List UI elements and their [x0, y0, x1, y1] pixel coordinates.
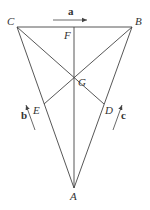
- label-g: G: [78, 76, 86, 88]
- segment-ba: [74, 27, 132, 188]
- label-d: D: [104, 104, 113, 116]
- label-vector-c: c: [121, 109, 126, 121]
- label-b: B: [135, 15, 142, 27]
- segment-ca: [17, 27, 74, 188]
- geometry-diagram: C B F G E D A a b c: [0, 0, 150, 210]
- label-vector-b: b: [21, 109, 27, 121]
- label-f: F: [63, 29, 71, 41]
- segment-cd: [17, 27, 104, 104]
- segment-be: [44, 27, 132, 104]
- label-a: A: [69, 190, 77, 202]
- label-c: C: [7, 15, 15, 27]
- label-e: E: [32, 104, 40, 116]
- label-vector-a: a: [68, 5, 74, 17]
